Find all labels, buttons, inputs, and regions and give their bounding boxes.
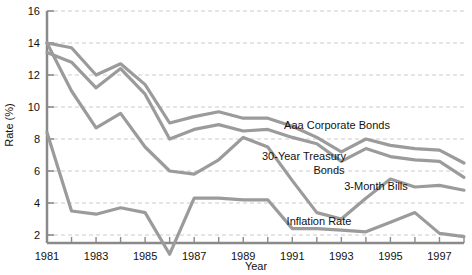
axes — [47, 11, 464, 243]
series-lines — [47, 43, 464, 254]
y-tick-label-6: 6 — [34, 165, 40, 177]
y-tick-label-2: 2 — [34, 229, 40, 241]
x-tick-label-1987: 1987 — [182, 250, 206, 262]
x-axis-tick-labels: 198119831985198719891991199319951997 — [35, 250, 452, 262]
thirty-year-treasury-bonds-label-line1: 30-Year Treasury — [262, 150, 346, 162]
x-tick-label-1991: 1991 — [280, 250, 304, 262]
chart-canvas: 198119831985198719891991199319951997 246… — [0, 0, 472, 275]
x-tick-label-1993: 1993 — [329, 250, 353, 262]
inflation-rate-label: Inflation Rate — [287, 215, 352, 227]
y-axis-title: Rate (%) — [3, 103, 15, 146]
y-tick-label-12: 12 — [28, 69, 40, 81]
x-tick-label-1997: 1997 — [427, 250, 451, 262]
y-tick-label-8: 8 — [34, 133, 40, 145]
series-line-aaa-corporate-bonds — [47, 43, 464, 163]
y-tick-label-4: 4 — [34, 197, 40, 209]
y-tick-label-16: 16 — [28, 5, 40, 17]
y-tick-label-10: 10 — [28, 101, 40, 113]
thirty-year-treasury-bonds-label-line2: Bonds — [313, 164, 345, 176]
x-tick-label-1985: 1985 — [133, 250, 157, 262]
x-tick-label-1995: 1995 — [378, 250, 402, 262]
series-line-inflation-rate — [47, 133, 464, 255]
three-month-bills-label: 3-Month Bills — [344, 180, 408, 192]
x-tick-label-1983: 1983 — [84, 250, 108, 262]
x-axis-title: Year — [245, 260, 268, 272]
x-tick-label-1981: 1981 — [35, 250, 59, 262]
aaa-corporate-bonds-label: Aaa Corporate Bonds — [284, 119, 390, 131]
line-chart: 198119831985198719891991199319951997 246… — [0, 0, 472, 275]
y-tick-label-14: 14 — [28, 37, 40, 49]
series-line-30-year-treasury-bonds — [47, 53, 464, 178]
y-axis-tick-labels: 246810121416 — [28, 5, 40, 241]
